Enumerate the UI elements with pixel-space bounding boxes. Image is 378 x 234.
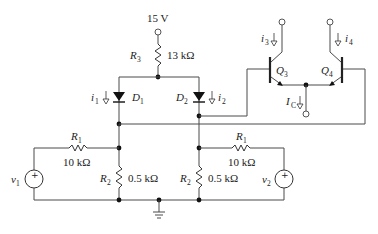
- i4-sub: 4: [349, 38, 353, 47]
- current-ic: I C: [285, 95, 303, 110]
- resistor-r2-right: R 2 0.5 kΩ: [179, 166, 238, 188]
- v2-plus-icon: +: [281, 170, 289, 180]
- r3-name: R: [129, 49, 137, 61]
- q3-collector-terminal: [279, 19, 285, 25]
- r2-right-name: R: [179, 172, 187, 184]
- resistor-r1-right-zigzag: [232, 145, 250, 151]
- q3-name: Q: [276, 64, 284, 76]
- down-arrow-icon: [335, 41, 341, 46]
- v1-plus-icon: +: [31, 170, 39, 180]
- resistor-r2-left-zigzag: [116, 166, 122, 188]
- r2-right-value: 0.5 kΩ: [208, 172, 238, 184]
- supply-terminal: [155, 29, 161, 35]
- q4-name: Q: [321, 64, 329, 76]
- resistor-r3: R 3 13 kΩ: [129, 44, 194, 66]
- current-i1: i 1: [91, 91, 109, 106]
- transistor-q4: Q 4: [321, 19, 342, 86]
- r1-left-name: R: [70, 130, 78, 142]
- diode-d2: D 2: [175, 91, 205, 106]
- wire-to-q3-base: [199, 69, 270, 116]
- r3-sub: 3: [137, 55, 141, 64]
- diode-d2-triangle: [193, 92, 205, 101]
- resistor-r1-left-zigzag: [69, 145, 87, 151]
- resistor-r1-right: R 1 10 kΩ: [228, 130, 255, 168]
- down-arrow-icon: [103, 99, 109, 104]
- ic-sub: C: [291, 101, 296, 110]
- d2-sub: 2: [184, 97, 188, 106]
- source-v1: + v 1: [11, 170, 43, 188]
- r2-left-sub: 2: [107, 178, 111, 187]
- resistor-r1-left: R 1 10 kΩ: [63, 130, 90, 168]
- r3-value: 13 kΩ: [167, 49, 194, 61]
- diode-d1: D 1: [113, 91, 144, 106]
- r1-right-sub: 1: [243, 136, 247, 145]
- circuit-schematic: 15 V R 3 13 kΩ D 1 i 1 D 2 i 2: [0, 0, 378, 234]
- resistor-r2-left: R 2 0.5 kΩ: [99, 166, 158, 188]
- v2-sub: 2: [267, 179, 271, 188]
- r1-left-value: 10 kΩ: [63, 156, 90, 168]
- q3-sub: 3: [284, 70, 288, 79]
- diode-d1-triangle: [113, 92, 125, 101]
- d2-name: D: [175, 91, 184, 103]
- down-arrow-icon: [209, 99, 215, 104]
- current-i3: i 3: [261, 32, 277, 47]
- i1-sub: 1: [95, 97, 99, 106]
- down-arrow-icon: [297, 104, 303, 109]
- down-arrow-icon: [271, 41, 277, 46]
- r2-right-sub: 2: [187, 178, 191, 187]
- r2-left-value: 0.5 kΩ: [128, 172, 158, 184]
- r1-right-name: R: [235, 130, 243, 142]
- r2-left-name: R: [99, 172, 107, 184]
- d1-sub: 1: [140, 97, 144, 106]
- q4-collector-terminal: [327, 19, 333, 25]
- i4-name: i: [345, 32, 348, 44]
- supply-label: 15 V: [147, 12, 169, 24]
- ground-icon: [153, 200, 165, 218]
- source-v2: + v 2: [262, 170, 293, 188]
- ic-terminal: [303, 111, 309, 117]
- v1-sub: 1: [16, 179, 20, 188]
- r1-left-sub: 1: [78, 136, 82, 145]
- transistor-q3: Q 3: [270, 19, 288, 86]
- i2-sub: 2: [222, 97, 226, 106]
- q4-sub: 4: [329, 70, 333, 79]
- node: [117, 198, 122, 203]
- supply-15v: 15 V: [147, 12, 169, 35]
- i3-sub: 3: [265, 38, 269, 47]
- r1-right-value: 10 kΩ: [228, 156, 255, 168]
- d1-name: D: [131, 91, 140, 103]
- node: [197, 198, 202, 203]
- current-i4: i 4: [335, 32, 353, 47]
- i2-name: i: [218, 91, 221, 103]
- i3-name: i: [261, 32, 264, 44]
- resistor-r3-zigzag: [155, 44, 161, 66]
- current-i2: i 2: [209, 91, 226, 106]
- i1-name: i: [91, 91, 94, 103]
